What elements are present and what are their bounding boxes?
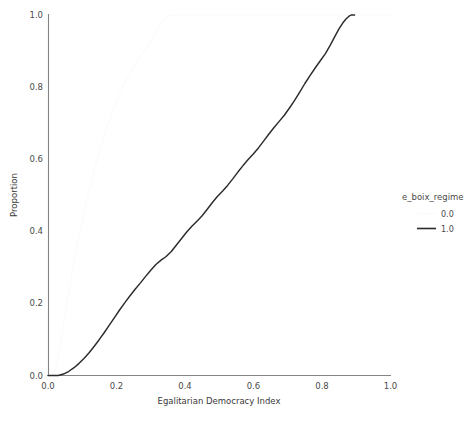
x-tick-label: 0.6 — [247, 381, 261, 391]
x-axis-title: Egalitarian Democracy Index — [158, 396, 281, 406]
y-axis-title: Proportion — [9, 173, 19, 217]
y-tick-label: 0.8 — [29, 82, 43, 92]
y-tick-label: 0.4 — [29, 226, 43, 236]
legend-entry-label: 1.0 — [441, 225, 454, 234]
x-tick-label: 0.8 — [315, 381, 329, 391]
legend-title: e_boix_regime — [402, 192, 464, 202]
chart-container: 1.0 0.8 0.6 0.4 0.2 0.0 0.0 0.2 0.4 0.6 … — [0, 0, 476, 421]
x-tick-label: 0.0 — [41, 381, 55, 391]
x-tick-label: 0.2 — [110, 381, 124, 391]
y-tick-label: 0.2 — [29, 298, 43, 308]
y-tick-label: 0.6 — [29, 154, 43, 164]
legend-entry-label: 0.0 — [441, 210, 454, 219]
y-tick-label: 0.0 — [29, 371, 43, 381]
x-tick-label: 1.0 — [384, 381, 398, 391]
y-tick-label: 1.0 — [29, 10, 43, 20]
ecdf-chart: 1.0 0.8 0.6 0.4 0.2 0.0 0.0 0.2 0.4 0.6 … — [0, 0, 476, 421]
x-tick-label: 0.4 — [178, 381, 192, 391]
chart-background — [0, 0, 476, 421]
